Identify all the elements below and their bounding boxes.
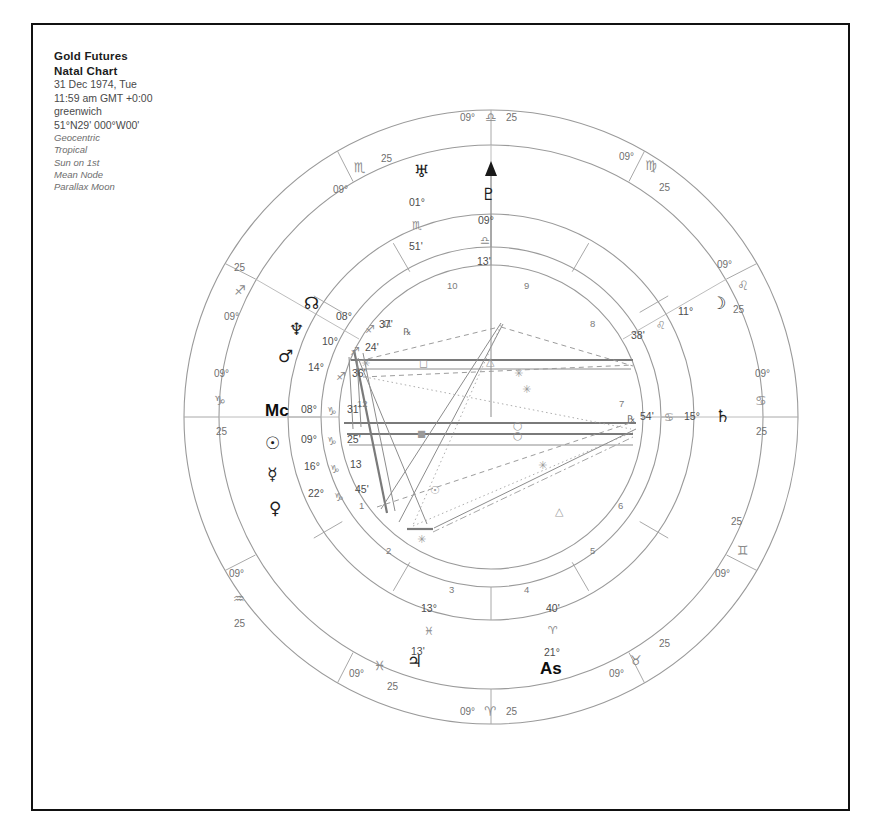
- libra-icon: ♎: [485, 110, 497, 125]
- chart-page-frame: Gold Futures Natal Chart 31 Dec 1974, Tu…: [31, 23, 850, 811]
- aspect-sextile-icon: ✳: [514, 367, 523, 380]
- moon-sign-icon: ♌: [656, 319, 666, 332]
- sign-label-sagittarius: 25 ♐ 09°: [224, 262, 246, 322]
- body-mercury: ☿ 16° ♑ 13: [267, 458, 362, 484]
- sign-leo-minute: 25: [733, 304, 745, 315]
- north-node-degree: 08°: [336, 310, 352, 322]
- sign-label-capricorn: 09° ♑ 25: [214, 368, 229, 437]
- body-pluto: ♇ 09° ♎ 13': [477, 184, 496, 267]
- house-number-4: 4: [524, 584, 529, 595]
- scorpio-icon: ♏: [354, 160, 366, 175]
- sign-cancer-degree: 09°: [755, 368, 770, 379]
- taurus-icon: ♉: [630, 653, 642, 668]
- cancer-icon: ♋: [755, 393, 767, 408]
- mercury-icon: ☿: [267, 464, 277, 484]
- sign-libra-degree: 09°: [460, 112, 475, 123]
- aspect-trine-icon: △: [486, 355, 495, 368]
- sign-taurus-degree: 09°: [609, 668, 624, 679]
- midheaven-degree: 08°: [301, 403, 317, 415]
- ascendant-degree: 21°: [544, 646, 560, 658]
- saturn-icon: ♄: [715, 406, 730, 426]
- sign-pisces-minute: 25: [387, 681, 399, 692]
- midheaven-sign-icon: ♑: [327, 405, 337, 418]
- pisces-icon: ♓: [374, 658, 386, 673]
- saturn-retrograde-icon: ℞: [627, 414, 635, 424]
- aspect-opposition2-icon: ☉: [430, 484, 440, 497]
- sun-sign-icon: ♑: [327, 435, 337, 448]
- saturn-degree: 15°: [684, 410, 700, 422]
- ascendant-minute: 40': [546, 602, 560, 614]
- jupiter-sign-icon: ♓: [424, 625, 434, 638]
- body-venus: ♀ 22° ♑ 45': [269, 483, 369, 518]
- sign-scorpio-minute: 25: [381, 153, 393, 164]
- house-number-8: 8: [590, 318, 595, 329]
- sagittarius-icon: ♐: [234, 283, 246, 298]
- sun-icon: ☉: [265, 433, 280, 453]
- house-number-10: 10: [447, 280, 458, 291]
- mars-minute: 36': [352, 367, 366, 379]
- moon-degree: 11°: [678, 305, 693, 317]
- pluto-icon: ♇: [481, 184, 496, 204]
- body-jupiter: ♃ 13° ♓ 13': [407, 602, 437, 671]
- venus-sign-icon: ♑: [334, 491, 344, 504]
- sign-cancer-minute: 25: [756, 426, 768, 437]
- moon-icon: ☽: [711, 293, 726, 313]
- neptune-minute: 24': [365, 341, 379, 353]
- sign-aries-degree: 09°: [460, 706, 475, 717]
- midheaven-minute: 31': [347, 403, 361, 415]
- house-number-7: 7: [619, 398, 624, 409]
- uranus-icon: ♅: [414, 161, 429, 181]
- sign-capricorn-degree: 09°: [214, 368, 229, 379]
- sun-minute: 25': [347, 433, 361, 445]
- house-number-9: 9: [524, 280, 529, 291]
- mars-icon: ♂: [278, 346, 293, 366]
- jupiter-degree: 13°: [421, 602, 437, 614]
- gemini-icon: ♊: [737, 543, 749, 558]
- venus-minute: 45': [355, 483, 369, 495]
- north-node-sign-icon: ♐: [365, 323, 375, 336]
- sign-label-cancer: 09° ♋ 25: [755, 368, 770, 437]
- uranus-minute: 51': [409, 240, 423, 252]
- aspect-square-icon: ○: [513, 429, 523, 442]
- uranus-sign-icon: ♏: [412, 219, 422, 232]
- pluto-minute: 13': [477, 255, 491, 267]
- body-uranus: ♅ 01° ♏ 51': [409, 161, 429, 252]
- mercury-minute: 13: [350, 458, 362, 470]
- sign-label-libra: 09° ♎ 25: [460, 110, 518, 125]
- mars-degree: 14°: [308, 361, 324, 373]
- sign-virgo-degree: 09°: [619, 151, 634, 162]
- mercury-degree: 16°: [304, 460, 320, 472]
- sign-capricorn-minute: 25: [216, 426, 228, 437]
- uranus-degree: 01°: [409, 196, 425, 208]
- venus-degree: 22°: [308, 487, 324, 499]
- house-number-5: 5: [590, 545, 595, 556]
- saturn-sign-icon: ♋: [664, 411, 674, 424]
- north-node-retrograde-icon: ℞: [403, 327, 411, 337]
- aquarius-icon: ♒: [233, 591, 245, 606]
- ascendant-label: As: [540, 659, 562, 678]
- chart-title: Gold Futures: [54, 49, 244, 64]
- aspect-symbols: ◻ △ ✳ ○ ○ ✳ ✳ △ ◼ ☉ ✳ ✳: [361, 355, 564, 546]
- sign-gemini-degree: 09°: [715, 568, 730, 579]
- pluto-sign-icon: ♎: [480, 234, 490, 247]
- jupiter-minute: 13': [411, 645, 425, 657]
- wheel-svg: ◻ △ ✳ ○ ○ ✳ ✳ △ ◼ ☉ ✳ ✳ 09° ♎ 25: [181, 77, 801, 757]
- saturn-minute: 54': [640, 410, 654, 422]
- sign-aquarius-minute: 25: [234, 618, 246, 629]
- house-number-6: 6: [618, 500, 623, 511]
- neptune-degree: 10°: [322, 335, 338, 347]
- body-sun: ☉ 09° ♑ 25': [265, 433, 361, 453]
- aspect-opposition-icon: ◻: [419, 357, 428, 370]
- pluto-degree: 09°: [478, 214, 494, 226]
- leo-icon: ♌: [737, 278, 749, 293]
- aspect-trine2-icon: △: [555, 505, 564, 518]
- sign-virgo-minute: 25: [659, 182, 671, 193]
- house-number-1: 1: [359, 500, 364, 511]
- mercury-sign-icon: ♑: [330, 463, 340, 476]
- virgo-icon: ♍: [645, 158, 657, 173]
- sign-sagittarius-minute: 25: [234, 262, 246, 273]
- capricorn-icon: ♑: [214, 393, 226, 408]
- sign-label-virgo: 09° ♍ 25: [619, 151, 671, 193]
- sign-libra-minute: 25: [506, 112, 518, 123]
- neptune-sign-icon: ♐: [350, 345, 360, 358]
